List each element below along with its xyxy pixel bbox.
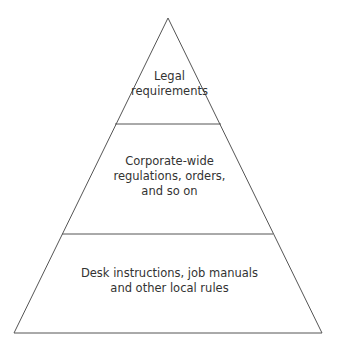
tier-bottom-line-2: and other local rules: [0, 281, 339, 296]
tier-top-line-1: Legal: [0, 69, 339, 84]
tier-bottom-line-1: Desk instructions, job manuals: [0, 266, 339, 281]
tier-bottom-label: Desk instructions, job manuals and other…: [0, 266, 339, 296]
tier-middle-line-1: Corporate-wide: [0, 154, 339, 169]
tier-middle-line-2: regulations, orders,: [0, 169, 339, 184]
tier-middle-label: Corporate-wide regulations, orders, and …: [0, 154, 339, 199]
tier-middle-line-3: and so on: [0, 184, 339, 199]
tier-top-line-2: requirements: [0, 84, 339, 99]
tier-top-label: Legal requirements: [0, 69, 339, 99]
